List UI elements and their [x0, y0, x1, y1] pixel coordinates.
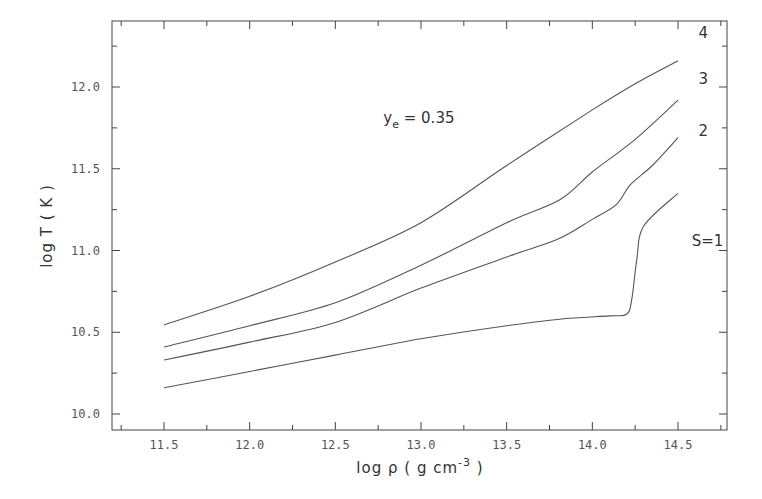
x-tick-label: 11.5 — [150, 438, 179, 452]
x-tick-label: 13.5 — [492, 438, 521, 452]
curve-label: 3 — [699, 70, 709, 88]
y-tick-label: 12.0 — [71, 80, 100, 94]
x-tick-label: 14.0 — [578, 438, 607, 452]
curve-s4 — [164, 61, 678, 325]
x-tick-label: 13.0 — [407, 438, 436, 452]
y-tick-label: 10.0 — [71, 407, 100, 421]
y-tick-labels: 10.010.511.011.512.0 — [71, 80, 100, 421]
curve-labels: S=1234 — [692, 24, 724, 250]
x-tick-label: 12.5 — [321, 438, 350, 452]
axis-ticks — [112, 21, 727, 430]
x-tick-label: 14.5 — [664, 438, 693, 452]
y-axis-title: log T ( K ) — [38, 184, 56, 268]
y-tick-label: 10.5 — [71, 325, 100, 339]
x-axis-title: log ρ ( g cm-3 ) — [356, 456, 483, 477]
chart-canvas: 11.512.012.513.013.514.014.5 10.010.511.… — [0, 0, 762, 499]
y-tick-label: 11.5 — [71, 162, 100, 176]
x-tick-label: 12.0 — [235, 438, 264, 452]
plot-frame — [112, 21, 727, 430]
curve-label: S=1 — [692, 232, 724, 250]
curve-s2 — [164, 138, 678, 360]
curve-s3 — [164, 100, 678, 347]
y-tick-label: 11.0 — [71, 244, 100, 258]
x-tick-labels: 11.512.012.513.013.514.014.5 — [150, 438, 693, 452]
curve-label: 4 — [699, 24, 709, 42]
curve-label: 2 — [699, 122, 709, 140]
ye-annotation: ye = 0.35 — [383, 109, 454, 131]
